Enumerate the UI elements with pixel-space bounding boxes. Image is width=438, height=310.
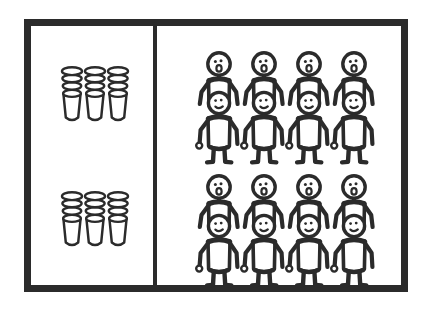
cup-stack — [108, 67, 128, 120]
cup-stack — [62, 192, 82, 245]
cup-stack — [62, 67, 82, 120]
illustration-canvas: 24 cups 16 people 2 groups of 3 stacks 2… — [0, 0, 438, 310]
cup-stack — [85, 67, 105, 120]
cup-stack — [85, 192, 105, 245]
cup-stack — [108, 192, 128, 245]
cup-group-bottom — [62, 192, 128, 245]
cup-group-top — [62, 67, 128, 120]
two-panel-pictogram — [0, 0, 438, 310]
